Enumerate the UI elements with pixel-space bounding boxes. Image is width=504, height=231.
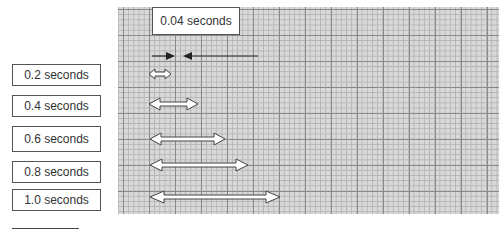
arrow-0-04-seconds: [152, 52, 258, 60]
arrow-0-6-seconds: [150, 133, 225, 145]
arrow-0-2-seconds: [149, 69, 171, 79]
arrows-overlay: [0, 0, 504, 231]
arrow-0-8-seconds: [150, 159, 248, 171]
arrow-1-0-seconds: [150, 191, 280, 203]
arrow-0-4-seconds: [149, 98, 198, 110]
